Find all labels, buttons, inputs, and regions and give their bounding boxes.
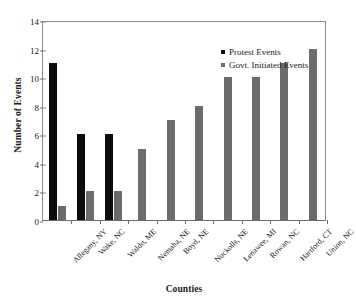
legend: Protest Events Govt. Initiated Events bbox=[221, 46, 308, 71]
legend-swatch-icon-govt-initiated-events bbox=[221, 63, 225, 67]
legend-label-govt-initiated-events: Govt. Initiated Events bbox=[229, 59, 308, 72]
bar-govt-initiated-events bbox=[252, 77, 260, 220]
y-axis-title: Number of Events bbox=[13, 50, 23, 180]
bar-group bbox=[100, 22, 128, 220]
x-tick-mark bbox=[100, 220, 101, 224]
legend-label-protest-events: Protest Events bbox=[229, 46, 281, 59]
bar-govt-initiated-events bbox=[58, 206, 66, 220]
bar-govt-initiated-events bbox=[114, 191, 122, 220]
bar-protest-events bbox=[105, 134, 113, 220]
x-tick-mark bbox=[157, 220, 158, 224]
x-tick-mark bbox=[213, 220, 214, 224]
x-tick-mark bbox=[71, 220, 72, 224]
bar-govt-initiated-events bbox=[224, 77, 232, 220]
bar-group bbox=[157, 22, 185, 220]
x-axis-title: Counties bbox=[42, 284, 326, 294]
bar-group bbox=[128, 22, 156, 220]
bar-group bbox=[43, 22, 71, 220]
bar-protest-events bbox=[49, 63, 57, 220]
bar-govt-initiated-events bbox=[167, 120, 175, 220]
bar-group bbox=[185, 22, 213, 220]
plot-area: 02468101214 Protest Events Govt. Initiat… bbox=[42, 21, 326, 221]
bar-govt-initiated-events bbox=[86, 191, 94, 220]
x-tick-mark bbox=[128, 220, 129, 224]
bar-group bbox=[71, 22, 99, 220]
x-tick-mark bbox=[270, 220, 271, 224]
x-tick-mark bbox=[185, 220, 186, 224]
legend-item-govt-initiated-events: Govt. Initiated Events bbox=[221, 59, 308, 72]
bar-govt-initiated-events bbox=[195, 106, 203, 220]
bar-govt-initiated-events bbox=[280, 63, 288, 220]
y-tick-mark bbox=[40, 222, 43, 223]
legend-swatch-icon-protest-events bbox=[221, 50, 225, 54]
bar-govt-initiated-events bbox=[138, 149, 146, 220]
x-category-label: Waldo, ME bbox=[126, 227, 158, 259]
x-tick-mark bbox=[299, 220, 300, 224]
legend-item-protest-events: Protest Events bbox=[221, 46, 308, 59]
x-category-label: Hartford, CT bbox=[298, 227, 334, 263]
bar-protest-events bbox=[77, 134, 85, 220]
x-tick-mark bbox=[242, 220, 243, 224]
bar-govt-initiated-events bbox=[309, 49, 317, 220]
x-tick-mark bbox=[327, 220, 328, 224]
